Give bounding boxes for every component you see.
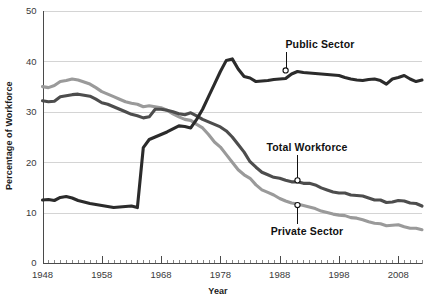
x-tick-label-1978: 1978 [210, 269, 231, 280]
annotation-marker-private-sector [295, 202, 300, 207]
x-tick-label-1968: 1968 [151, 269, 172, 280]
y-tick-label-30: 30 [26, 106, 37, 117]
y-tick-label-10: 10 [26, 207, 37, 218]
x-tick-label-1998: 1998 [328, 269, 349, 280]
x-axis-title: Year [208, 286, 228, 296]
y-tick-label-20: 20 [26, 157, 37, 168]
x-tick-label-1958: 1958 [91, 269, 112, 280]
y-tick-label-0: 0 [31, 257, 36, 268]
chart-background [0, 0, 433, 301]
annotation-marker-total-workforce [295, 178, 300, 183]
x-tick-label-1948: 1948 [32, 269, 53, 280]
annotation-label-private-sector: Private Sector [271, 225, 344, 237]
y-tick-label-40: 40 [26, 56, 37, 67]
x-tick-label-2008: 2008 [388, 269, 409, 280]
y-tick-label-50: 50 [26, 5, 37, 16]
annotation-label-public-sector: Public Sector [285, 38, 354, 50]
x-tick-label-1988: 1988 [269, 269, 290, 280]
annotation-label-total-workforce: Total Workforce [266, 141, 347, 153]
annotation-marker-public-sector [283, 68, 288, 73]
y-axis-title: Percentage of Workforce [4, 81, 14, 190]
chart-container: 01020304050 1948195819681978198819982008… [0, 0, 433, 301]
union-membership-line-chart: 01020304050 1948195819681978198819982008… [0, 0, 433, 301]
